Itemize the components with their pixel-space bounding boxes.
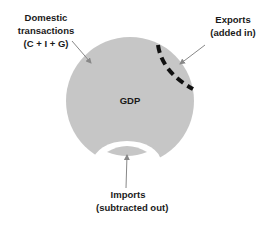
domestic-transactions-label: Domestic transactions (C + I + G) <box>14 11 78 50</box>
exports-arrow <box>180 45 205 64</box>
exports-label-line-1: Exports <box>204 13 262 26</box>
domestic-label-line-1: Domestic <box>14 11 78 24</box>
imports-label-line-2: (subtracted out) <box>96 201 160 214</box>
gdp-label-text: GDP <box>112 94 148 107</box>
imports-label: Imports (subtracted out) <box>96 188 160 214</box>
imports-label-line-1: Imports <box>96 188 160 201</box>
gdp-circle <box>66 37 194 183</box>
gdp-label: GDP <box>112 94 148 107</box>
domestic-label-line-2: transactions <box>14 24 78 37</box>
domestic-label-line-3: (C + I + G) <box>14 37 78 50</box>
exports-label: Exports (added in) <box>204 13 262 39</box>
exports-label-line-2: (added in) <box>204 26 262 39</box>
